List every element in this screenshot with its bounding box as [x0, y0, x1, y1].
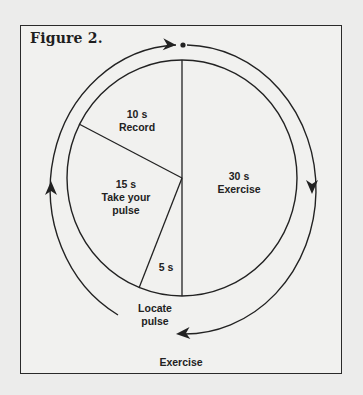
- exercise-activity: Exercise: [217, 183, 260, 196]
- take-pulse-activity-line1: Take your: [102, 191, 151, 204]
- record-activity: Record: [119, 121, 155, 134]
- arrow-right-icon: [163, 38, 177, 51]
- record-duration: 10 s: [119, 108, 155, 121]
- locate-pulse-label: Locate pulse: [138, 302, 172, 328]
- bottom-exercise-label: Exercise: [159, 356, 202, 369]
- start-dot-icon: [180, 42, 185, 47]
- locate-duration-label: 5 s: [159, 261, 174, 274]
- exercise-duration: 30 s: [217, 170, 260, 183]
- locate-pulse-line2: pulse: [138, 315, 172, 328]
- cycle-diagram: [0, 0, 363, 395]
- take-pulse-label: 15 s Take your pulse: [102, 178, 151, 217]
- take-pulse-activity-line2: pulse: [102, 204, 151, 217]
- bottom-exercise-text: Exercise: [159, 356, 202, 369]
- locate-duration: 5 s: [159, 261, 174, 274]
- take-pulse-duration: 15 s: [102, 178, 151, 191]
- arrow-up-icon: [45, 181, 57, 195]
- locate-pulse-line1: Locate: [138, 302, 172, 315]
- record-label: 10 s Record: [119, 108, 155, 134]
- exercise-label: 30 s Exercise: [217, 170, 260, 196]
